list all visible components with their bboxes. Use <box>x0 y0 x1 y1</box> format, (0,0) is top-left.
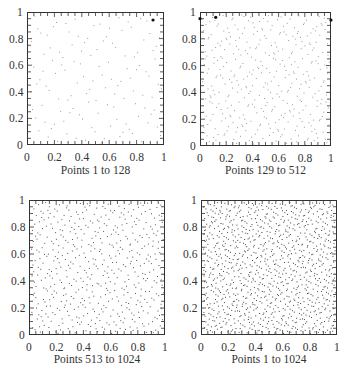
y-tick-label: 0 <box>191 329 197 341</box>
caption-panel-4: Points 1 to 1024 <box>201 353 337 365</box>
caption-panel-1: Points 1 to 128 <box>27 164 164 176</box>
scatter-points <box>0 0 351 372</box>
y-tick-label: 1 <box>191 194 197 206</box>
x-tick-label: 0.8 <box>303 341 317 353</box>
y-tick-label: 0.4 <box>183 275 197 287</box>
x-tick-label: 0.2 <box>221 341 235 353</box>
caption-panel-3: Points 513 to 1024 <box>29 353 165 365</box>
y-tick-label: 0.8 <box>183 221 197 233</box>
x-tick-label: 0.6 <box>276 341 290 353</box>
x-tick-label: 1 <box>334 341 340 353</box>
x-tick-label: 0.4 <box>248 341 262 353</box>
caption-panel-2: Points 129 to 512 <box>200 164 331 176</box>
x-tick-label: 0 <box>198 341 204 353</box>
y-tick-label: 0.2 <box>183 302 197 314</box>
y-tick-label: 0.6 <box>183 248 197 260</box>
